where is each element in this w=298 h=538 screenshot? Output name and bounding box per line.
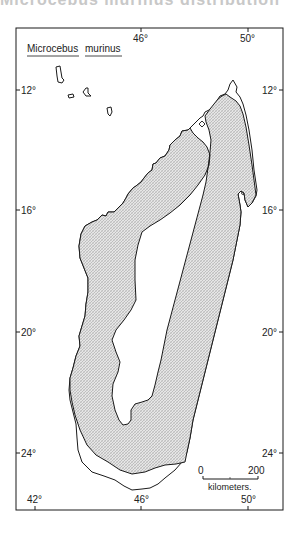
distribution-map: 46° 50° 42° 46° 50° 12° 16° 20° 24° 12° … (0, 0, 298, 538)
label-right-12: 12° (262, 85, 277, 96)
scale-unit-label: kilometers. (208, 482, 252, 492)
scale-label-zero: 0 (198, 465, 204, 476)
label-bottom-46: 46° (134, 494, 149, 505)
label-top-50: 50° (240, 33, 255, 44)
island-mayotte (107, 107, 112, 116)
title-genus: Microcebus (27, 43, 78, 54)
label-right-16: 16° (262, 205, 277, 216)
island-grande-comore (56, 66, 64, 83)
label-left-24: 24° (21, 448, 36, 459)
scale-bar (203, 476, 258, 479)
label-top-46: 46° (133, 33, 148, 44)
island-moheli (68, 94, 74, 98)
label-bottom-42: 42° (27, 494, 42, 505)
scale-label-200: 200 (248, 465, 265, 476)
label-left-16: 16° (21, 205, 36, 216)
label-right-24: 24° (262, 448, 277, 459)
label-bottom-50: 50° (241, 494, 256, 505)
island-anjouan (83, 88, 91, 96)
title-species: murinus (85, 43, 121, 54)
label-right-20: 20° (262, 327, 277, 338)
label-left-20: 20° (21, 327, 36, 338)
label-left-12: 12° (21, 85, 36, 96)
